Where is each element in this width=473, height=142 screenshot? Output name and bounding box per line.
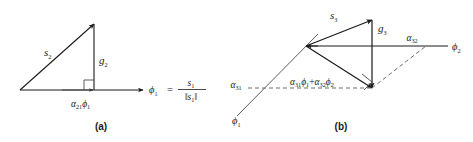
panel-a-right-angle-marker (84, 80, 94, 90)
panel-a-s2-vector (20, 24, 94, 90)
panel-a-equals-sign: = (167, 84, 173, 95)
panel-b-projection-label: α31ϕ1+α32ϕ2 (290, 77, 334, 88)
panel-b-dashed-diagonal (372, 46, 426, 88)
panel-a-projection-label: α21ϕ1 (71, 99, 90, 110)
panel-a: s2 g2 α21ϕ1 ϕ1 = s1 ‖s1‖ (a) (20, 24, 206, 132)
gram-schmidt-figure: s2 g2 α21ϕ1 ϕ1 = s1 ‖s1‖ (a) (0, 0, 473, 142)
panel-b-phi2-label: ϕ2 (452, 41, 461, 54)
panel-b-alpha32-label: α32 (406, 33, 417, 44)
panel-b-s3-vector (306, 20, 372, 46)
panel-a-caption: (a) (95, 121, 107, 132)
panel-a-fraction-denominator: ‖s1‖ (185, 92, 197, 103)
panel-b: s3 g3 α32 ϕ2 α31 ϕ1 α31ϕ1+α32ϕ2 (b) (230, 9, 460, 132)
panel-a-fraction-numerator: s1 (188, 78, 195, 89)
panel-b-alpha31-label: α31 (230, 80, 241, 91)
panel-b-caption: (b) (335, 121, 348, 132)
panel-b-s3-label: s3 (330, 9, 337, 23)
panel-b-phi1-label: ϕ1 (232, 115, 241, 128)
figure-canvas: s2 g2 α21ϕ1 ϕ1 = s1 ‖s1‖ (a) (0, 0, 473, 142)
panel-a-axis-label-phi1: ϕ1 (149, 84, 158, 97)
panel-a-s2-label: s2 (44, 46, 51, 60)
panel-b-g3-label: g3 (378, 22, 387, 36)
panel-a-g2-label: g2 (99, 54, 108, 68)
